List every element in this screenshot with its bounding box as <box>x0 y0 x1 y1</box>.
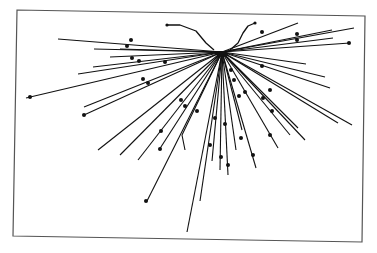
ray-dot <box>268 133 272 137</box>
figure-frame <box>13 10 365 242</box>
ray-dot <box>28 95 32 99</box>
ray-line <box>182 52 222 150</box>
ray-dot <box>229 68 233 72</box>
ray-dot <box>144 199 148 203</box>
ray-dot <box>232 78 236 82</box>
ray-dot <box>141 77 145 81</box>
rays-group <box>26 23 354 232</box>
left-arc <box>167 25 214 50</box>
ray-dot <box>239 136 243 140</box>
ray-dot <box>295 38 299 42</box>
ray-dot <box>158 147 162 151</box>
ray-dot <box>129 38 133 42</box>
ray-dot <box>347 41 351 45</box>
ray-dot <box>208 143 212 147</box>
hub-node <box>216 51 228 57</box>
ray-line <box>222 52 325 77</box>
ray-dot <box>243 90 247 94</box>
ray-dot <box>137 59 141 63</box>
radial-line-diagram <box>0 0 377 253</box>
ray-dot <box>251 153 255 157</box>
ray-dot <box>163 60 167 64</box>
ray-dot <box>260 64 264 68</box>
ray-dot <box>219 155 223 159</box>
ray-line <box>120 52 222 155</box>
right-arc-tip <box>253 21 256 24</box>
ray-dot <box>270 109 274 113</box>
ray-line <box>222 52 352 125</box>
ray-dot <box>159 129 163 133</box>
ray-dot <box>179 98 183 102</box>
ray-dot <box>195 109 199 113</box>
ray-dot <box>237 94 241 98</box>
ray-dot <box>226 163 230 167</box>
ray-dot <box>260 30 264 34</box>
ray-dot <box>295 32 299 36</box>
ray-dot <box>268 88 272 92</box>
ray-dot <box>223 122 227 126</box>
ray-dot <box>146 81 150 85</box>
ray-dot <box>261 96 265 100</box>
ray-dot <box>213 116 217 120</box>
ray-dot <box>130 56 134 60</box>
left-arc-tip <box>165 23 168 26</box>
hub-arcs <box>165 21 256 50</box>
ray-dot <box>183 104 187 108</box>
ray-dot <box>125 44 129 48</box>
ray-dot <box>82 113 86 117</box>
